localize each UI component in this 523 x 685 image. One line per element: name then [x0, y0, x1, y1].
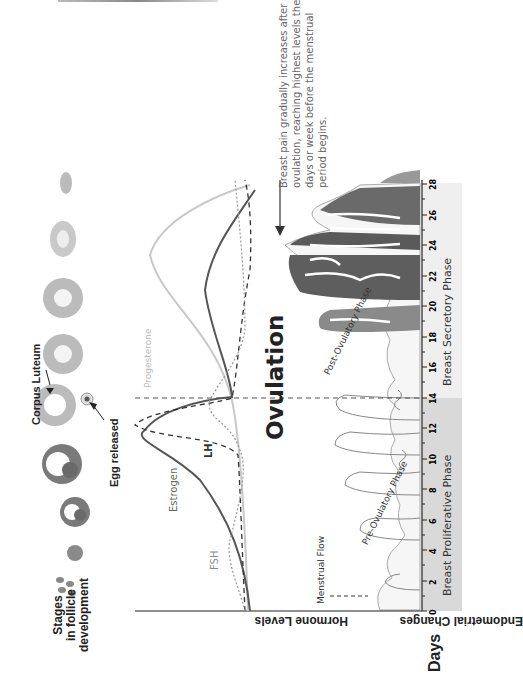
- follicle-title-line-3: development: [78, 578, 91, 652]
- annotation-arrow-icon: [275, 180, 285, 236]
- proliferative-phase-label: Breast Proliferative Phase: [441, 455, 454, 596]
- days-label: Days: [426, 634, 444, 672]
- tick-8: 8: [429, 487, 438, 493]
- lh-curve: [135, 180, 251, 611]
- menstrual-flow-label: Menstrual Flow: [316, 536, 326, 604]
- estrogen-label: Estrogen: [168, 468, 179, 512]
- annotation-line-2: ovulation, reaching highest levels the: [290, 0, 303, 188]
- annotation-line-3: days or week before the menstrual: [303, 0, 316, 188]
- estrogen-curve: [142, 190, 255, 611]
- egg-released-label: Egg released: [108, 419, 120, 487]
- annotation-line-1: Breast pain gradually increases after: [277, 0, 290, 188]
- tick-12: 12: [429, 423, 438, 434]
- tick-28: 28: [429, 179, 438, 190]
- tick-2: 2: [429, 579, 438, 585]
- fsh-curve: [209, 180, 245, 611]
- fsh-label: FSH: [209, 551, 220, 570]
- tick-0: 0: [429, 609, 438, 615]
- progesterone-label: Progesterone: [143, 328, 153, 388]
- follicle-title: Stages in follicle development: [52, 578, 91, 652]
- tick-4: 4: [429, 548, 438, 554]
- tick-24: 24: [429, 240, 438, 251]
- corpus-albicans-icon: [60, 172, 72, 194]
- tick-20: 20: [429, 301, 438, 312]
- tick-26: 26: [429, 210, 438, 221]
- tick-22: 22: [429, 271, 438, 282]
- endometrial-tissue: [285, 170, 420, 610]
- follicle-stages: [34, 172, 104, 596]
- endometrial-changes-label: Endometrial Changes: [393, 614, 523, 628]
- secretory-phase-label: Breast Secretory Phase: [441, 258, 454, 386]
- corpus-luteum-arrow-icon: [46, 370, 50, 385]
- corpus-luteum-label: Corpus Luteum: [30, 344, 42, 425]
- tick-14: 14: [429, 393, 438, 404]
- lh-label: LH: [203, 443, 214, 458]
- breast-pain-annotation: Breast pain gradually increases after ov…: [277, 0, 329, 188]
- hormone-levels-label: Hormone Levels: [243, 614, 348, 628]
- tick-6: 6: [429, 518, 438, 524]
- primary-follicle-icon: [67, 545, 83, 561]
- annotation-line-4: period begins.: [316, 0, 329, 188]
- ovulation-label: Ovulation: [262, 315, 288, 440]
- tick-16: 16: [429, 362, 438, 373]
- tick-10: 10: [429, 454, 438, 465]
- tick-18: 18: [429, 332, 438, 343]
